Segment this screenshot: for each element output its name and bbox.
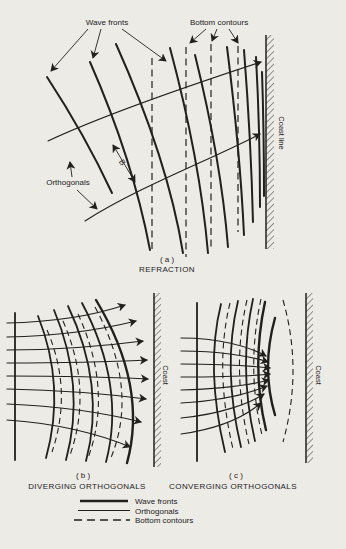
refraction-figure: B Wave fronts Bottom contours Orthogonal… bbox=[0, 0, 346, 549]
leader-arrow bbox=[77, 190, 97, 209]
leader-arrow bbox=[51, 29, 88, 71]
panel-c: Coast ( c ) CONVERGING ORTHOGONALS bbox=[169, 293, 323, 491]
coast-line-a bbox=[266, 35, 274, 249]
legend-label-orthogonals: Orthogonals bbox=[135, 507, 179, 516]
wave-fronts-label: Wave fronts bbox=[86, 18, 128, 27]
wave-front-line bbox=[227, 47, 244, 235]
coast-line-c bbox=[306, 293, 313, 463]
leader-arrow bbox=[190, 29, 206, 43]
orthogonal-line bbox=[181, 374, 270, 377]
legend: Wave fronts Orthogonals Bottom contours bbox=[74, 497, 193, 525]
wave-front-line bbox=[256, 57, 260, 207]
legend-label-bottom-contours: Bottom contours bbox=[135, 516, 193, 525]
orthogonal-line bbox=[181, 351, 268, 362]
wave-fronts-b bbox=[15, 300, 133, 463]
coast-label-b: Coast bbox=[161, 365, 170, 386]
coast-line-b bbox=[154, 293, 161, 467]
contour-line bbox=[283, 300, 293, 442]
wave-front-line bbox=[268, 318, 275, 415]
wave-front-line bbox=[116, 44, 183, 253]
wave-front-line bbox=[96, 300, 133, 463]
coast-hatch bbox=[266, 35, 274, 249]
orthogonal-line bbox=[85, 134, 260, 221]
bottom-contours-leaders bbox=[190, 29, 238, 43]
wave-front-line bbox=[258, 302, 266, 430]
panel-c-title: CONVERGING ORTHOGONALS bbox=[169, 482, 297, 491]
panel-a-letter: ( a ) bbox=[160, 255, 175, 264]
orthogonals-label: Orthogonals bbox=[46, 178, 90, 187]
coast-label-c: Coast bbox=[314, 365, 323, 386]
contour-line bbox=[239, 300, 249, 444]
orthogonals-c bbox=[181, 338, 270, 434]
orthogonal-line bbox=[7, 376, 148, 379]
wave-front-line bbox=[170, 48, 208, 253]
leader-arrow bbox=[70, 162, 72, 177]
coast-hatch bbox=[306, 293, 313, 463]
bottom-contours-label: Bottom contours bbox=[190, 18, 248, 27]
wave-front-line bbox=[47, 77, 112, 193]
panel-b: Coast ( b ) DIVERGING ORTHOGONALS bbox=[7, 293, 170, 491]
wave-front-line bbox=[262, 72, 264, 196]
wave-fronts-c bbox=[197, 299, 275, 461]
contour-line bbox=[95, 307, 122, 460]
legend-label-wave-fronts: Wave fronts bbox=[135, 497, 177, 506]
orthogonal-line bbox=[181, 380, 269, 390]
leader-arrow bbox=[212, 29, 217, 41]
wave-fronts-leaders bbox=[51, 29, 166, 71]
coast-line-label: Coast line bbox=[277, 116, 286, 149]
scanned-figure-page: { "colors": { "paper": "#edebe6", "ink":… bbox=[0, 0, 346, 549]
panel-b-title: DIVERGING ORTHOGONALS bbox=[28, 482, 146, 491]
leader-arrow bbox=[93, 29, 101, 58]
wave-front-line bbox=[38, 316, 54, 458]
panel-c-letter: ( c ) bbox=[229, 471, 243, 480]
orthogonal-line bbox=[7, 360, 147, 363]
coast-hatch bbox=[154, 293, 161, 467]
leader-arrow bbox=[122, 29, 166, 61]
orthogonal-line bbox=[7, 389, 146, 399]
orthogonal-line bbox=[181, 394, 264, 418]
panel-b-letter: ( b ) bbox=[76, 471, 91, 480]
wave-front-line bbox=[244, 50, 253, 222]
orthogonal-line bbox=[7, 341, 143, 350]
panel-a: B Wave fronts Bottom contours Orthogonal… bbox=[46, 18, 286, 274]
panel-a-title: REFRACTION bbox=[139, 265, 195, 274]
orthogonal-line bbox=[181, 364, 270, 368]
orthogonal-line bbox=[7, 321, 136, 337]
leader-arrow bbox=[229, 29, 238, 43]
